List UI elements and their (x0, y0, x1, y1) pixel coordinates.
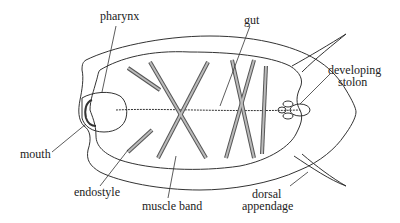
label-mouth: mouth (20, 148, 51, 160)
label-gut: gut (244, 14, 259, 26)
pharynx-outline (82, 92, 127, 132)
outer-body-outline (79, 36, 356, 190)
gut-line (116, 109, 300, 110)
label-stolon-line2: stolon (338, 76, 367, 88)
label-endostyle: endostyle (74, 186, 120, 198)
label-appendage-line2: appendage (242, 200, 293, 212)
label-muscle-band: muscle band (142, 200, 202, 212)
anatomy-diagram (0, 0, 400, 223)
label-pharynx: pharynx (100, 10, 139, 22)
